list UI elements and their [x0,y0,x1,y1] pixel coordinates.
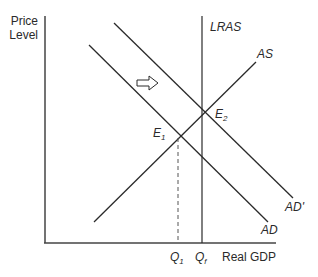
qf-text: Q [195,250,204,264]
right-arrow-icon [137,76,158,90]
q1-text: Q [170,250,179,264]
y-axis-label: Price Level [4,14,38,42]
qf-tick-label: Qf [195,250,207,269]
q1-tick-label: Q1 [170,250,184,269]
e2-subscript: 2 [223,114,227,123]
e1-subscript: 1 [161,133,165,142]
x-axis-label: Real GDP [222,250,276,264]
lras-label: LRAS [210,20,241,34]
e1-text: E [153,126,161,140]
y-label-line2: Level [4,28,38,42]
e2-text: E [215,107,223,121]
y-label-line1: Price [4,14,38,28]
e1-label: E1 [153,126,165,145]
as-label: AS [257,47,273,61]
q1-subscript: 1 [179,257,183,266]
as-curve [94,62,256,222]
ad-label: AD [261,223,278,237]
e2-label: E2 [215,107,227,126]
ad-prime-label: AD' [285,200,304,214]
qf-subscript: f [204,257,206,266]
